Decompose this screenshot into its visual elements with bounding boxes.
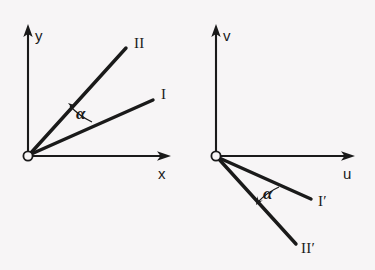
ray-two-prime-label: II′ [301,240,315,256]
panel-xy-coordinate-system: y x II I α [23,24,171,182]
angle-alpha-prime-label: α [263,184,273,203]
ray-two-line [29,48,126,155]
ray-two-label: II [134,35,145,51]
y-axis: y [23,24,43,156]
origin-marker-xy [23,151,32,160]
ray-two: II [29,35,145,155]
ray-two-prime-line [217,157,296,244]
angle-alpha: α [68,103,92,123]
angle-alpha-label: α [76,104,86,123]
v-axis: v [211,24,231,156]
u-axis-label: u [343,165,351,182]
two-coordinate-systems-diagram: y x II I α [0,0,375,270]
ray-one-prime-label: I′ [318,193,327,209]
y-axis-label: y [35,27,43,44]
figure-root: y x II I α [0,0,375,270]
x-axis-label: x [158,165,166,182]
ray-two-prime: II′ [217,157,315,256]
ray-one-label: I [161,86,166,102]
angle-alpha-prime: α [256,184,279,205]
v-axis-label: v [223,27,231,44]
origin-marker-uv [211,151,220,160]
ray-one-line [29,100,153,155]
x-axis: x [30,151,171,182]
ray-one: I [29,86,166,155]
panel-uv-coordinate-system: v u I′ II′ α [211,24,355,256]
